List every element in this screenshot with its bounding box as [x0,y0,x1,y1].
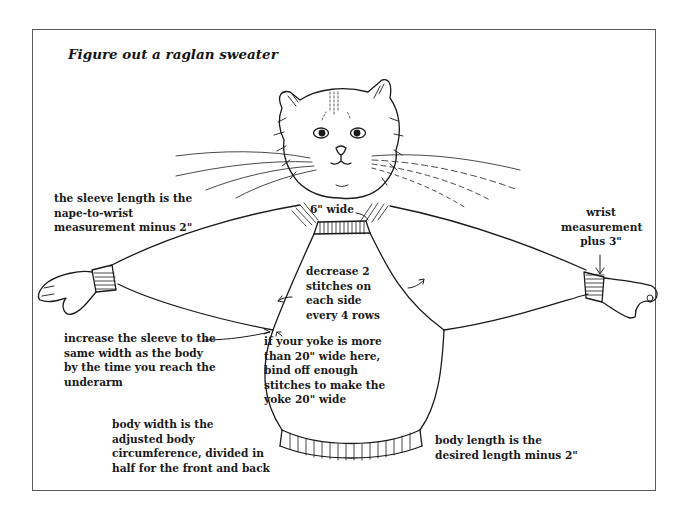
body-width-note: body width is the adjusted body circumfe… [112,417,270,475]
sleeve-increase-note: increase the sleeve to the same width as… [64,331,216,389]
cat-head-icon [176,80,520,208]
body-length-note: body length is the desired length minus … [435,433,578,462]
annotation-arrows [204,213,604,340]
sleeve-length-note: the sleeve length is the nape-to-wrist m… [54,191,192,235]
decrease-note: decrease 2 stitches on each side every 4… [306,264,380,322]
yoke-note: if your yoke is more than 20" wide here,… [264,334,385,407]
wrist-note: wrist measurement plus 3" [561,205,641,249]
neck-width-label: 6" wide [310,202,354,217]
raglan-sweater-illustration [0,0,688,518]
